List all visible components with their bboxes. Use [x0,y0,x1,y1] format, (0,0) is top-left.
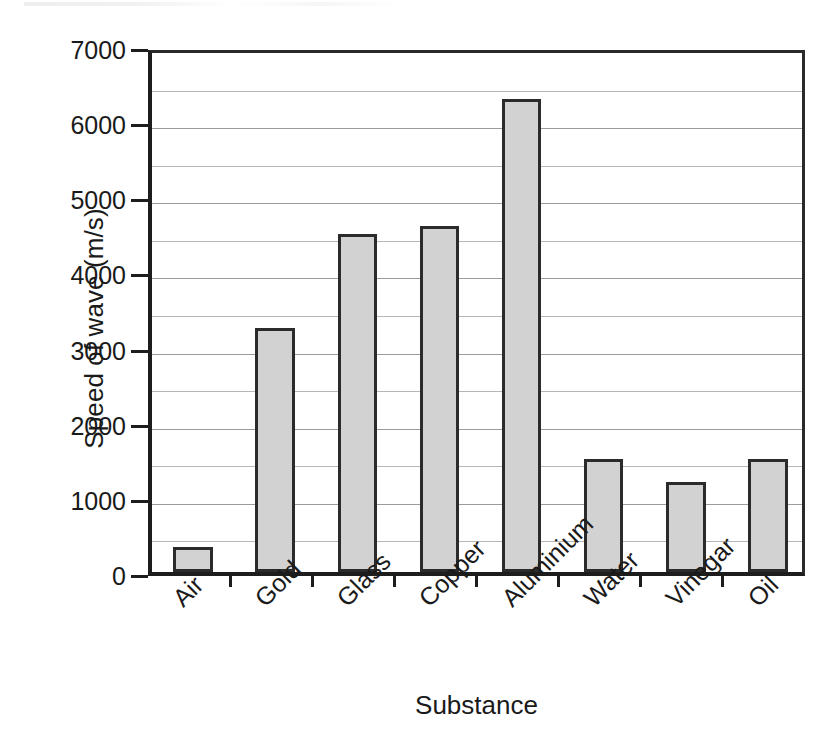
x-axis-label-air: Air [167,570,209,612]
x-axis-category-labels: AirGoldGlassCopperAluminiumWaterVinegarO… [0,0,836,741]
x-axis-label-vinegar: Vinegar [660,531,741,612]
bar-chart-figure: Speed of wave (m/s) 01000200030004000500… [0,0,836,741]
x-axis-title: Substance [148,690,805,721]
x-axis-label-copper: Copper [413,534,491,612]
x-axis-label-water: Water [578,546,645,613]
x-axis-label-glass: Glass [331,547,397,613]
x-axis-label-oil: Oil [742,570,784,612]
x-axis-label-gold: Gold [249,555,307,613]
